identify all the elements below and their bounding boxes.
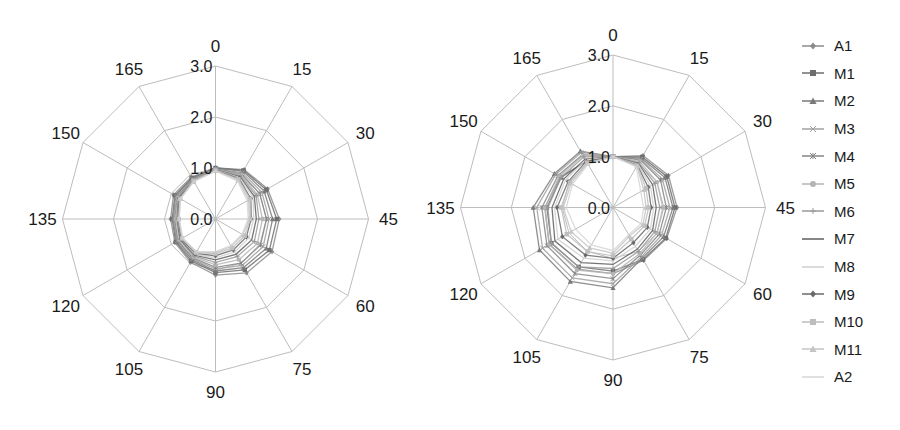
legend-item-m8: M8 <box>800 253 900 281</box>
data-point-marker <box>257 217 261 221</box>
legend-label: M4 <box>834 148 855 165</box>
legend-label: M10 <box>834 313 863 330</box>
legend-swatch-icon <box>800 95 826 107</box>
angle-label: 0 <box>608 26 617 45</box>
legend-swatch-icon <box>800 343 826 355</box>
angle-label: 60 <box>753 285 772 304</box>
legend-swatch-icon <box>800 371 826 383</box>
legend-swatch-icon <box>800 123 826 135</box>
legend-item-m3: M3 <box>800 115 900 143</box>
angle-label: 165 <box>115 60 143 79</box>
legend-swatch-icon <box>800 233 826 245</box>
angle-label: 135 <box>426 199 454 218</box>
radial-tick-label: 0.0 <box>190 211 212 228</box>
data-point-marker <box>810 70 816 76</box>
legend-item-m10: M10 <box>800 308 900 336</box>
legend-swatch-icon <box>800 316 826 328</box>
legend-swatch-icon <box>800 150 826 162</box>
radar-grid <box>63 66 369 372</box>
angle-label: 45 <box>776 199 795 218</box>
angle-label: 60 <box>356 297 375 316</box>
radial-tick-label: 2.0 <box>588 98 610 115</box>
legend-item-m2: M2 <box>800 87 900 115</box>
data-point-marker <box>810 42 816 49</box>
legend-item-m7: M7 <box>800 225 900 253</box>
angle-label: 15 <box>293 60 312 79</box>
angle-label: 30 <box>753 112 772 131</box>
legend-label: M2 <box>834 92 855 109</box>
angle-label: 120 <box>51 297 79 316</box>
data-point-marker <box>810 291 816 298</box>
legend-item-a2: A2 <box>800 363 900 391</box>
angle-label: 90 <box>206 383 225 402</box>
angle-label: 105 <box>115 360 143 379</box>
angle-label: 120 <box>449 285 477 304</box>
legend-label: M5 <box>834 175 855 192</box>
legend-swatch-icon <box>800 40 826 52</box>
data-point-marker <box>275 217 279 221</box>
angle-label: 165 <box>513 49 541 68</box>
radial-tick-label: 3.0 <box>190 58 212 75</box>
legend-label: M6 <box>834 203 855 220</box>
angle-label: 150 <box>51 124 79 143</box>
radial-tick-label: 3.0 <box>588 47 610 64</box>
legend-label: M3 <box>834 120 855 137</box>
angle-label: 45 <box>379 210 398 229</box>
radial-tick-label: 0.0 <box>588 200 610 217</box>
data-point-marker <box>565 232 569 236</box>
angle-label: 0 <box>211 37 220 56</box>
data-point-marker <box>810 181 816 187</box>
legend-item-m1: M1 <box>800 60 900 88</box>
legend-label: M8 <box>834 258 855 275</box>
legend-swatch-icon <box>800 205 826 217</box>
angle-label: 75 <box>690 348 709 367</box>
legend-item-m9: M9 <box>800 280 900 308</box>
angle-label: 90 <box>604 371 623 390</box>
radar-chart-left: 0.01.02.03.00153045607590105120135150165 <box>28 37 398 402</box>
legend: A1M1M2M3M4M5M6M7M8M9M10M11A2 <box>800 32 900 391</box>
radial-tick-label: 1.0 <box>190 160 212 177</box>
legend-swatch-icon <box>800 178 826 190</box>
legend-swatch-icon <box>800 67 826 79</box>
grid-spoke <box>613 131 745 207</box>
legend-item-m11: M11 <box>800 336 900 364</box>
legend-swatch-icon <box>800 288 826 300</box>
data-point-marker <box>810 208 816 214</box>
radar-series-group <box>531 149 680 291</box>
legend-item-m5: M5 <box>800 170 900 198</box>
angle-label: 15 <box>690 49 709 68</box>
angle-label: 75 <box>293 360 312 379</box>
radar-figure: 0.01.02.03.00153045607590105120135150165… <box>0 0 900 430</box>
angle-label: 150 <box>449 112 477 131</box>
legend-label: M1 <box>834 65 855 82</box>
legend-label: A2 <box>834 368 852 385</box>
legend-label: M7 <box>834 230 855 247</box>
legend-item-a1: A1 <box>800 32 900 60</box>
radar-grid <box>461 55 766 360</box>
series-a1 <box>168 165 281 277</box>
data-point-marker <box>569 229 574 234</box>
legend-item-m6: M6 <box>800 198 900 226</box>
angle-label: 105 <box>513 348 541 367</box>
legend-label: M9 <box>834 286 855 303</box>
data-point-marker <box>810 319 816 325</box>
radial-tick-label: 2.0 <box>190 109 212 126</box>
angle-label: 135 <box>28 210 56 229</box>
grid-spoke <box>216 219 293 352</box>
radar-series-group <box>168 165 281 277</box>
grid-spoke <box>613 208 745 284</box>
angle-label: 30 <box>356 124 375 143</box>
legend-item-m4: M4 <box>800 142 900 170</box>
radar-chart-right: 0.01.02.03.00153045607590105120135150165 <box>426 26 795 390</box>
legend-label: A1 <box>834 37 852 54</box>
data-point-marker <box>611 271 615 275</box>
legend-label: M11 <box>834 341 862 358</box>
radial-tick-label: 1.0 <box>588 149 610 166</box>
legend-swatch-icon <box>800 261 826 273</box>
